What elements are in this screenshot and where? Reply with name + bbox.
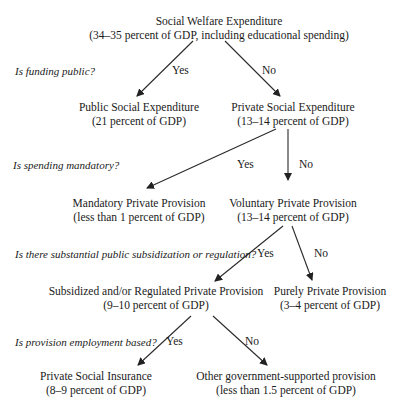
- node-value: (13–14 percent of GDP): [229, 210, 357, 224]
- arrow-q2-yes: [147, 129, 276, 188]
- question-employment-based: Is provision employment based?: [15, 335, 157, 349]
- node-mandatory-private-provision: Mandatory Private Provision (less than 1…: [73, 196, 206, 224]
- node-value: (21 percent of GDP): [79, 114, 199, 128]
- node-value: (34–35 percent of GDP, including educati…: [89, 28, 349, 42]
- node-title: Private Social Expenditure: [231, 100, 354, 114]
- question-public-subsidization: Is there substantial public subsidizatio…: [15, 247, 256, 261]
- node-voluntary-private-provision: Voluntary Private Provision (13–14 perce…: [229, 196, 357, 224]
- node-title: Public Social Expenditure: [79, 100, 199, 114]
- edge-label-no: No: [314, 246, 328, 260]
- edge-label-yes: Yes: [172, 63, 189, 77]
- edge-label-no: No: [262, 63, 276, 77]
- node-value: (13–14 percent of GDP): [231, 114, 354, 128]
- node-title: Social Welfare Expenditure: [89, 14, 349, 28]
- node-title: Purely Private Provision: [274, 284, 386, 298]
- node-other-government-supported: Other government-supported provision (le…: [196, 369, 376, 397]
- node-subsidized-regulated-provision: Subsidized and/or Regulated Private Prov…: [49, 284, 264, 312]
- edge-label-yes: Yes: [257, 246, 274, 260]
- node-value: (3–4 percent of GDP): [274, 298, 386, 312]
- node-title: Mandatory Private Provision: [73, 196, 206, 210]
- edge-label-no: No: [245, 334, 259, 348]
- node-public-social-expenditure: Public Social Expenditure (21 percent of…: [79, 100, 199, 128]
- node-title: Voluntary Private Provision: [229, 196, 357, 210]
- node-private-social-expenditure: Private Social Expenditure (13–14 percen…: [231, 100, 354, 128]
- node-title: Private Social Insurance: [40, 369, 152, 383]
- edge-label-yes: Yes: [237, 157, 254, 171]
- question-funding-public: Is funding public?: [15, 64, 95, 78]
- edge-label-no: No: [299, 157, 313, 171]
- node-private-social-insurance: Private Social Insurance (8–9 percent of…: [40, 369, 152, 397]
- node-title: Subsidized and/or Regulated Private Prov…: [49, 284, 264, 298]
- edge-label-yes: Yes: [166, 334, 183, 348]
- node-social-welfare-expenditure: Social Welfare Expenditure (34–35 percen…: [89, 14, 349, 42]
- node-value: (9–10 percent of GDP): [49, 298, 264, 312]
- node-title: Other government-supported provision: [196, 369, 376, 383]
- arrow-q3-no: [292, 226, 312, 280]
- question-spending-mandatory: Is spending mandatory?: [13, 158, 119, 172]
- node-purely-private-provision: Purely Private Provision (3–4 percent of…: [274, 284, 386, 312]
- node-value: (8–9 percent of GDP): [40, 383, 152, 397]
- node-value: (less than 1.5 percent of GDP): [196, 383, 376, 397]
- node-value: (less than 1 percent of GDP): [73, 210, 206, 224]
